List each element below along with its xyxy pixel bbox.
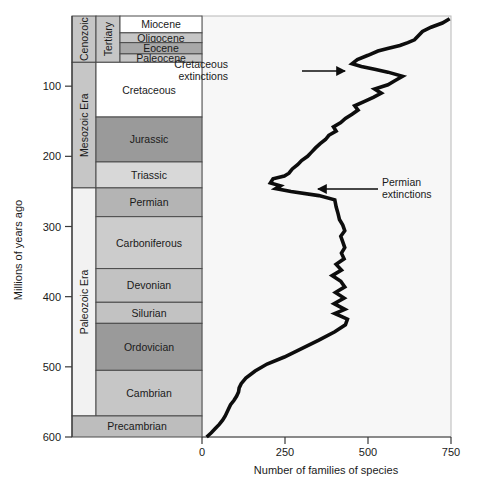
plot-panel	[202, 16, 451, 437]
band-ordovician: Ordovician	[96, 323, 202, 370]
annotation-line-1: Cretaceous	[174, 58, 228, 70]
band-label: Miocene	[141, 18, 181, 30]
band-label: Triassic	[131, 169, 167, 181]
band-devonian: Devonian	[96, 269, 202, 303]
y-tick-label: 100	[43, 80, 61, 92]
band-label: Permian	[129, 196, 168, 208]
era-paleozoic: Paleozoic Era	[72, 188, 96, 416]
y-tick-label: 300	[43, 221, 61, 233]
band-cambrian: Cambrian	[96, 370, 202, 416]
x-tick-label: 0	[199, 446, 205, 458]
band-label: Cambrian	[126, 387, 172, 399]
band-label: Jurassic	[130, 133, 169, 145]
x-tick-label: 500	[359, 446, 377, 458]
band-label: Precambrian	[107, 420, 167, 432]
band-miocene: Miocene	[120, 16, 202, 33]
era-label: Cenozoic	[78, 17, 90, 61]
x-tick-label: 250	[276, 446, 294, 458]
era-mesozoic: Mesozoic Era	[72, 62, 96, 188]
band-permian: Permian	[96, 188, 202, 217]
band-carboniferous: Carboniferous	[96, 217, 202, 269]
band-label: Carboniferous	[116, 237, 182, 249]
geologic-time-figure: CenozoicMesozoic EraPaleozoic EraTertiar…	[0, 0, 477, 494]
era-label: Mesozoic Era	[78, 93, 90, 157]
annotation-line-1: Permian	[382, 176, 421, 188]
band-precambrian: Precambrian	[72, 416, 202, 437]
band-label: Ordovician	[124, 341, 174, 353]
period-tertiary: Tertiary	[96, 16, 120, 62]
band-triassic: Triassic	[96, 162, 202, 188]
period-label: Tertiary	[102, 21, 114, 56]
y-axis-title: Millions of years ago	[12, 200, 24, 300]
band-silurian: Silurian	[96, 302, 202, 323]
y-tick-label: 500	[43, 361, 61, 373]
band-jurassic: Jurassic	[96, 117, 202, 162]
annotation-line-2: extinctions	[178, 70, 228, 82]
band-label: Silurian	[131, 307, 166, 319]
y-tick-label: 200	[43, 150, 61, 162]
y-tick-label: 400	[43, 291, 61, 303]
era-cenozoic: Cenozoic	[72, 16, 96, 62]
era-label: Paleozoic Era	[78, 269, 90, 334]
band-label: Devonian	[127, 279, 172, 291]
figure-svg: CenozoicMesozoic EraPaleozoic EraTertiar…	[0, 0, 477, 494]
band-label: Cretaceous	[122, 84, 176, 96]
x-tick-label: 750	[442, 446, 460, 458]
annotation-line-2: extinctions	[382, 188, 432, 200]
x-axis-title: Number of families of species	[254, 464, 399, 476]
y-tick-label: 600	[43, 431, 61, 443]
